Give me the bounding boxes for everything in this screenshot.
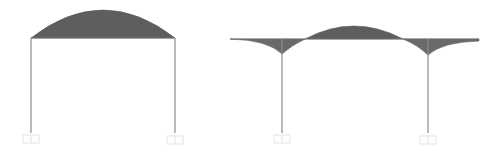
left-support-icon — [274, 135, 290, 143]
frame-with-overhangs — [230, 26, 479, 144]
right-support-icon — [420, 136, 436, 144]
left-support-icon — [23, 135, 39, 143]
negative-moment-area-left — [230, 39, 305, 54]
positive-moment-area — [31, 10, 175, 38]
positive-moment-area — [305, 26, 403, 39]
diagram-canvas — [0, 0, 497, 153]
negative-moment-area-right — [403, 39, 479, 55]
right-support-icon — [167, 136, 183, 144]
portal-frame — [23, 10, 183, 144]
